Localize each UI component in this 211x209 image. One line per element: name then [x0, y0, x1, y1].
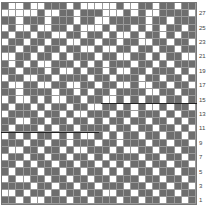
grid-cell [139, 75, 146, 82]
grid-cell [74, 168, 81, 175]
grid-cell [139, 125, 146, 132]
grid-cell [31, 154, 38, 161]
grid-cell [67, 197, 74, 204]
grid-cell [95, 89, 102, 96]
grid-cell [81, 161, 88, 168]
row-label: 23 [199, 39, 206, 46]
grid-cell [45, 104, 52, 111]
grid-cell [131, 176, 138, 183]
grid-cell [31, 96, 38, 103]
grid-cell [52, 17, 59, 24]
grid-cell [52, 32, 59, 39]
grid-cell [81, 118, 88, 125]
grid-cell [24, 96, 31, 103]
grid-cell [175, 68, 182, 75]
grid-cell [67, 147, 74, 154]
grid-cell [131, 183, 138, 190]
grid-cell [103, 3, 110, 10]
grid-cell [52, 104, 59, 111]
grid-cell [110, 17, 117, 24]
grid-cell [74, 82, 81, 89]
grid-cell [2, 183, 9, 190]
grid-cell [160, 154, 167, 161]
grid-cell [110, 82, 117, 89]
grid-cell [52, 68, 59, 75]
grid-cell [189, 68, 196, 75]
grid-cell [182, 61, 189, 68]
grid-cell [146, 3, 153, 10]
row-label: 7 [199, 154, 202, 161]
grid-cell [167, 17, 174, 24]
separator-line-right [101, 103, 197, 104]
grid-cell [95, 17, 102, 24]
grid-cell [88, 75, 95, 82]
grid-cell [189, 140, 196, 147]
grid-cell [81, 39, 88, 46]
grid-cell [139, 89, 146, 96]
grid-cell [175, 154, 182, 161]
grid-cell [160, 132, 167, 139]
grid-cell [38, 118, 45, 125]
grid-cell [95, 111, 102, 118]
grid-cell [2, 140, 9, 147]
grid-cell [160, 176, 167, 183]
grid-cell [160, 68, 167, 75]
grid-cell [189, 111, 196, 118]
grid-cell [139, 32, 146, 39]
grid-cell [167, 147, 174, 154]
grid-cell [117, 111, 124, 118]
grid-cell [60, 25, 67, 32]
grid-cell [38, 25, 45, 32]
grid-cell [31, 3, 38, 10]
grid-cell [189, 147, 196, 154]
grid-cell [103, 10, 110, 17]
grid-cell [16, 168, 23, 175]
grid-cell [160, 25, 167, 32]
grid-cell [74, 89, 81, 96]
grid-cell [124, 46, 131, 53]
grid-cell [131, 125, 138, 132]
grid-cell [117, 17, 124, 24]
grid-cell [110, 190, 117, 197]
grid-cell [74, 104, 81, 111]
grid-cell [124, 176, 131, 183]
grid-cell [139, 190, 146, 197]
grid-cell [45, 61, 52, 68]
grid-cell [131, 75, 138, 82]
grid-cell [124, 61, 131, 68]
grid-cell [52, 140, 59, 147]
grid-cell [24, 140, 31, 147]
grid-cell [167, 183, 174, 190]
grid-cell [124, 75, 131, 82]
grid-cell [52, 190, 59, 197]
grid-cell [31, 168, 38, 175]
grid-cell [2, 89, 9, 96]
grid-cell [103, 89, 110, 96]
grid-cell [45, 68, 52, 75]
grid-cell [88, 89, 95, 96]
grid-cell [167, 61, 174, 68]
grid-cell [182, 183, 189, 190]
grid-cell [139, 154, 146, 161]
grid-cell [16, 10, 23, 17]
grid-cell [124, 161, 131, 168]
grid-cell [67, 104, 74, 111]
grid-cell [153, 3, 160, 10]
grid-cell [167, 111, 174, 118]
grid-cell [131, 10, 138, 17]
grid-cell [67, 118, 74, 125]
grid-cell [2, 96, 9, 103]
grid-cell [110, 75, 117, 82]
grid-cell [146, 118, 153, 125]
grid-cell [81, 17, 88, 24]
grid-cell [117, 32, 124, 39]
grid-cell [124, 25, 131, 32]
grid-cell [38, 154, 45, 161]
grid-cell [110, 68, 117, 75]
grid-cell [45, 75, 52, 82]
grid-cell [74, 68, 81, 75]
grid-cell [182, 118, 189, 125]
grid-cell [52, 147, 59, 154]
grid-cell [2, 53, 9, 60]
grid-cell [189, 61, 196, 68]
